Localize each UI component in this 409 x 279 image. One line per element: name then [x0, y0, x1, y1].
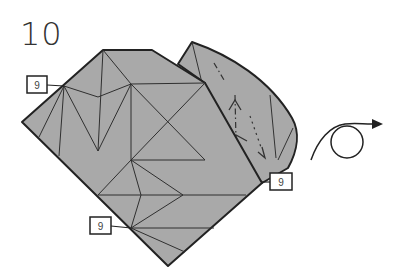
svg-text:9: 9: [34, 80, 40, 91]
svg-text:9: 9: [98, 221, 104, 232]
svg-text:9: 9: [278, 177, 284, 188]
turn-over-icon: [311, 119, 383, 160]
origami-diagram: 9 9 9: [0, 0, 409, 279]
